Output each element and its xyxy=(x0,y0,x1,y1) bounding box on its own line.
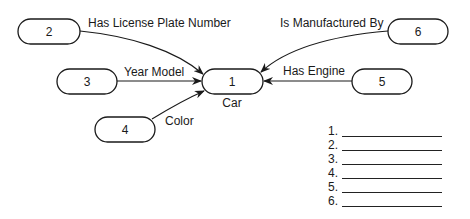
answer-row-3: 3. xyxy=(318,152,448,166)
edge-label-manufactured-by: Is Manufactured By xyxy=(280,16,383,30)
node-1-car: 1 Car xyxy=(202,69,263,110)
answer-blank[interactable] xyxy=(342,150,442,151)
answer-row-5: 5. xyxy=(318,180,448,194)
answer-blank[interactable] xyxy=(342,192,442,193)
edge-label-engine: Has Engine xyxy=(283,64,345,78)
node-6: 6 xyxy=(388,19,448,44)
answer-number: 1. xyxy=(318,124,338,138)
node-4: 4 xyxy=(95,117,155,142)
answer-blank[interactable] xyxy=(342,136,442,137)
node-2-label: 2 xyxy=(46,25,53,39)
node-6-label: 6 xyxy=(415,25,422,39)
answer-row-2: 2. xyxy=(318,138,448,152)
answer-number: 3. xyxy=(318,152,338,166)
edge-label-year-model: Year Model xyxy=(124,65,184,79)
answer-blank[interactable] xyxy=(342,164,442,165)
answer-number: 5. xyxy=(318,180,338,194)
node-2: 2 xyxy=(18,19,80,44)
answer-number: 6. xyxy=(318,194,338,208)
node-5-label: 5 xyxy=(379,75,386,89)
node-3: 3 xyxy=(57,69,117,94)
node-5: 5 xyxy=(352,69,412,94)
node-1-caption: Car xyxy=(222,96,241,110)
answer-blank[interactable] xyxy=(342,206,442,207)
answer-number: 4. xyxy=(318,166,338,180)
answer-list: 1. 2. 3. 4. 5. 6. xyxy=(318,124,448,208)
node-1-label: 1 xyxy=(229,75,236,89)
answer-number: 2. xyxy=(318,138,338,152)
answer-row-1: 1. xyxy=(318,124,448,138)
answer-row-4: 4. xyxy=(318,166,448,180)
edge-label-color: Color xyxy=(165,114,194,128)
answer-blank[interactable] xyxy=(342,178,442,179)
answer-row-6: 6. xyxy=(318,194,448,208)
node-4-label: 4 xyxy=(122,123,129,137)
node-3-label: 3 xyxy=(84,75,91,89)
edge-label-license-plate: Has License Plate Number xyxy=(88,16,231,30)
